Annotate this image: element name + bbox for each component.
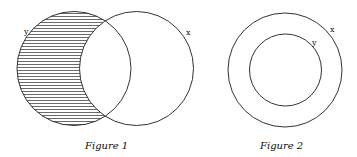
- figure-1: y x Figure 1: [0, 0, 357, 157]
- set-y-circle: [250, 34, 322, 106]
- figure-2: x y Figure 2: [228, 13, 342, 151]
- set-x-label: x: [330, 25, 335, 34]
- figure-2-caption: Figure 2: [259, 140, 303, 151]
- set-x-circle: [228, 13, 342, 127]
- set-y-label: y: [311, 38, 317, 47]
- set-x-label: x: [186, 28, 191, 37]
- set-y-label: y: [23, 27, 29, 36]
- figure-1-caption: Figure 1: [84, 140, 128, 151]
- shaded-region: [0, 0, 357, 157]
- venn-diagrams: y x Figure 1 x y Figure 2: [0, 0, 357, 157]
